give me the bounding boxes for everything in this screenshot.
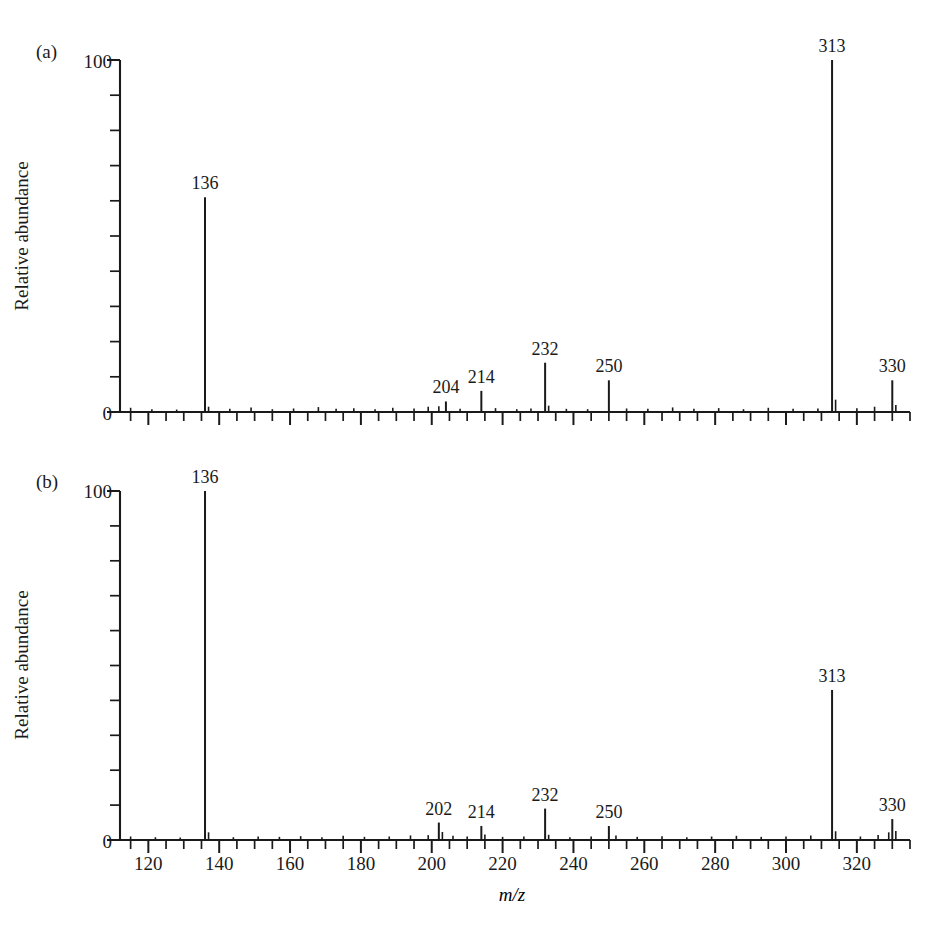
panel-a-y-tick-0: 0 <box>103 403 113 424</box>
x-axis-tick-label: 140 <box>205 853 234 874</box>
x-axis-tick-label: 160 <box>276 853 305 874</box>
peak-label: 330 <box>879 795 906 815</box>
peak-label: 250 <box>595 802 622 822</box>
panel-a-axes <box>107 60 910 425</box>
x-axis-tick-label: 120 <box>134 853 163 874</box>
peak-label: 214 <box>468 802 495 822</box>
panel-b-peaks <box>131 491 896 840</box>
panel-a-y-axis-title: Relative abundance <box>11 161 32 310</box>
panel-a-peaks <box>131 60 896 412</box>
panel-a-peak-labels: 136204214232250313330 <box>192 36 906 397</box>
peak-label: 232 <box>532 339 559 359</box>
mass-spectra-figure: (a) 100 0 Relative abundance 13620421423… <box>0 0 940 936</box>
peak-label: 204 <box>432 377 459 397</box>
x-axis-tick-label: 320 <box>843 853 872 874</box>
x-axis-tick-label: 220 <box>488 853 517 874</box>
peak-label: 202 <box>425 799 452 819</box>
peak-label: 313 <box>819 36 846 56</box>
peak-label: 136 <box>192 173 219 193</box>
panel-b-y-axis-title: Relative abundance <box>11 590 32 739</box>
panel-b-peak-labels: 136202214232250313330 <box>192 467 906 822</box>
x-axis-tick-label: 280 <box>701 853 730 874</box>
panel-b-axes <box>107 491 910 853</box>
panel-a-tag: (a) <box>36 41 57 63</box>
panel-a-y-tick-100: 100 <box>84 51 113 72</box>
x-axis-tick-label: 240 <box>559 853 588 874</box>
peak-label: 136 <box>192 467 219 487</box>
peak-label: 330 <box>879 356 906 376</box>
spectrum-panel-a: (a) 100 0 Relative abundance 13620421423… <box>0 0 940 455</box>
peak-label: 250 <box>595 356 622 376</box>
peak-label: 214 <box>468 367 495 387</box>
x-axis-tick-label: 180 <box>347 853 376 874</box>
peak-label: 313 <box>819 666 846 686</box>
x-axis-tick-label: 260 <box>630 853 659 874</box>
x-axis-title: m/z <box>499 884 526 905</box>
spectrum-panel-b: (b) 100 0 Relative abundance 13620221423… <box>0 455 940 936</box>
x-axis-tick-labels: 120140160180200220240260280300320 <box>134 853 871 874</box>
x-axis-tick-label: 300 <box>772 853 801 874</box>
panel-b-tag: (b) <box>36 471 58 493</box>
peak-label: 232 <box>532 785 559 805</box>
panel-b-y-tick-0: 0 <box>103 831 113 852</box>
x-axis-tick-label: 200 <box>417 853 446 874</box>
